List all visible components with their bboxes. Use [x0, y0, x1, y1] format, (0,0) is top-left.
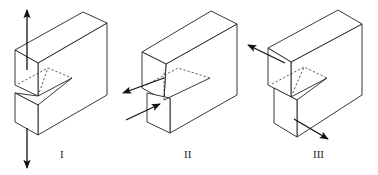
label-mode-ii: II: [184, 148, 192, 160]
fracture-modes-diagram: I II III: [0, 0, 378, 175]
mode-ii-block: II: [123, 11, 237, 160]
mode-i-block: I: [15, 10, 107, 168]
label-mode-i: I: [60, 148, 64, 160]
mode-iii-block: III: [248, 10, 362, 160]
label-mode-iii: III: [313, 148, 324, 160]
